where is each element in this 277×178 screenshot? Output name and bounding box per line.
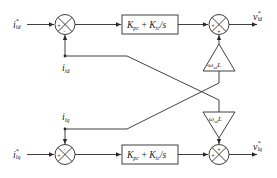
svg-text:Kpc + Kic/s: Kpc + Kic/s bbox=[126, 20, 166, 31]
feedback-label-i-lq: ilq bbox=[62, 111, 69, 123]
input-label-i-ld-ref: i*ld bbox=[13, 18, 21, 30]
summing-junction-d1: + - bbox=[55, 15, 75, 35]
summing-junction-d2: + + bbox=[209, 15, 229, 35]
pi-controller-block-d: Kpc + Kic/s bbox=[122, 15, 178, 34]
wire-cross-q-to-d-gain bbox=[65, 71, 219, 129]
sign-plus: + bbox=[218, 28, 221, 34]
sign-plus: + bbox=[212, 152, 215, 158]
pi-controller-block-q: Kpc + Kic/s bbox=[122, 145, 178, 164]
sign-plus: + bbox=[58, 152, 61, 158]
output-label-v-ld-ref: v*ld bbox=[253, 10, 263, 22]
summing-junction-q2: + + bbox=[209, 145, 229, 165]
feedback-label-i-ld: ild bbox=[62, 62, 70, 74]
sign-plus: + bbox=[218, 146, 221, 152]
summing-junction-q1: + - bbox=[55, 145, 75, 165]
gain-block-omega-l: ωsdL bbox=[203, 112, 235, 138]
sign-plus: + bbox=[212, 22, 215, 28]
sign-plus: + bbox=[58, 22, 61, 28]
input-label-i-lq-ref: i*lq bbox=[13, 148, 20, 160]
control-block-diagram: i*ld + - Kpc + Kic/s + + v*ld ild -ωsdL … bbox=[0, 0, 277, 178]
output-label-v-lq-ref: v*lq bbox=[253, 140, 262, 152]
wire-cross-d-to-q-gain bbox=[65, 56, 219, 112]
gain-block-neg-omega-l: -ωsdL bbox=[203, 44, 235, 71]
svg-text:Kpc + Kic/s: Kpc + Kic/s bbox=[126, 150, 166, 161]
